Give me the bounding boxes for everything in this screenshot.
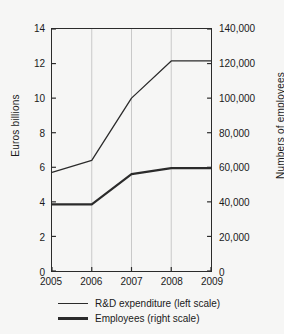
series-line [52,168,211,204]
y-axis-right-ticks: 020,00040,00060,00080,000100,000120,0001… [219,28,284,272]
tick-label: 40,000 [219,197,250,208]
series-line [52,61,211,172]
tick-label: 2005 [40,276,62,287]
tick-label: 10 [34,92,45,103]
tick-label: 14 [34,23,45,34]
tick-label: 80,000 [219,127,250,138]
legend-line-glyph [58,303,88,304]
tick-label: 100,000 [219,92,255,103]
tick-label: 2008 [161,276,183,287]
legend-line-glyph [58,317,88,319]
tick-label: 2006 [80,276,102,287]
tick-label: 4 [39,197,45,208]
tick-label: 2009 [201,276,223,287]
y-axis-left-ticks: 02468101214 [0,28,45,272]
chart-legend: R&D expenditure (left scale)Employees (r… [0,296,284,326]
tick-label: 8 [39,127,45,138]
legend-label: R&D expenditure (left scale) [95,298,220,309]
tick-label: 20,000 [219,232,250,243]
plot-area [51,28,212,272]
tick-label: 2 [39,232,45,243]
legend-line-icon [58,317,88,319]
tick-label: 6 [39,162,45,173]
tick-label: 60,000 [219,162,250,173]
x-axis-ticks: 20052006200720082009 [51,276,212,292]
series-lines [52,29,211,271]
chart-container: Euros billions Numbers of employees 0246… [0,0,284,334]
legend-item: R&D expenditure (left scale) [0,296,284,311]
legend-line-icon [58,303,88,304]
tick-label: 12 [34,57,45,68]
legend-item: Employees (right scale) [0,311,284,326]
tick-label: 120,000 [219,57,255,68]
tick-label: 2007 [120,276,142,287]
legend-label: Employees (right scale) [95,313,199,324]
tick-label: 140,000 [219,23,255,34]
